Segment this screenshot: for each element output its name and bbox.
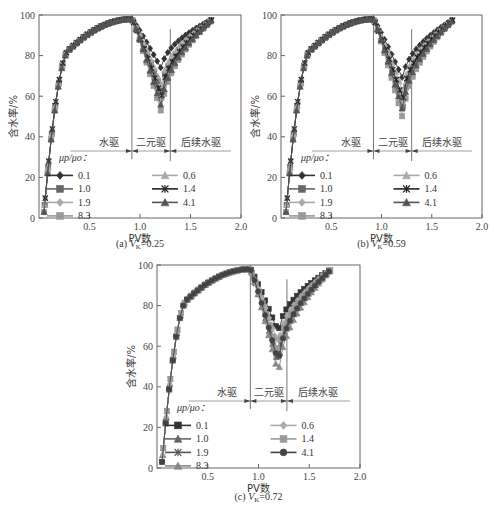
chart-b: 0204060801000.51.01.52.0PV数含水率/%(b) VK=0… — [249, 10, 488, 252]
legend-label: 8.3 — [78, 210, 91, 221]
legend-item-8.3: 8.3 — [289, 210, 333, 221]
region-label: 二元驱 — [254, 387, 284, 398]
chart-caption: (a) VK=0.25 — [116, 238, 164, 251]
x-tick-label: 0.5 — [325, 221, 338, 232]
region-label: 后续水驱 — [181, 136, 221, 148]
legend-label: 1.4 — [425, 183, 438, 194]
y-tick-label: 80 — [143, 300, 153, 311]
y-tick-label: 100 — [262, 10, 277, 21]
region-label: 水驱 — [341, 137, 361, 148]
y-axis-label: 含水率/% — [125, 345, 137, 388]
legend-item-1.9: 1.9 — [47, 197, 91, 208]
legend-label: 1.9 — [78, 197, 91, 208]
legend-item-8.3: 8.3 — [47, 210, 91, 221]
legend-item-0.1: 0.1 — [165, 420, 209, 431]
legend-label: 1.4 — [302, 433, 315, 444]
chart-c: 0204060801000.51.01.52.0PV数含水率/%(c) VK=0… — [125, 260, 366, 505]
legend-item-0.6: 0.6 — [152, 170, 196, 181]
x-tick-label: 2.0 — [354, 471, 367, 482]
legend-item-8.3: 8.3 — [165, 460, 209, 471]
x-tick-label: 0.5 — [202, 471, 215, 482]
plot-frame — [281, 15, 482, 218]
y-tick-label: 80 — [267, 50, 277, 61]
y-tick-label: 40 — [143, 381, 153, 392]
legend-item-1.0: 1.0 — [289, 183, 333, 194]
legend-label: 4.1 — [302, 447, 315, 458]
y-tick-label: 20 — [25, 172, 35, 183]
y-tick-label: 0 — [272, 213, 277, 224]
region-label: 二元驱 — [136, 137, 166, 148]
figure: 0204060801000.51.01.52.0PV数含水率/%(a) VK=0… — [0, 0, 494, 517]
legend-item-4.1: 4.1 — [152, 197, 196, 208]
x-tick-label: 1.5 — [184, 221, 197, 232]
y-tick-label: 0 — [148, 463, 153, 474]
legend-item-4.1: 4.1 — [394, 197, 438, 208]
y-tick-label: 40 — [25, 131, 35, 142]
legend-item-0.6: 0.6 — [271, 420, 315, 431]
x-tick-label: 1.0 — [375, 221, 388, 232]
legend-label: 1.0 — [320, 183, 333, 194]
x-tick-label: 2.0 — [476, 221, 489, 232]
y-tick-label: 20 — [267, 172, 277, 183]
x-tick-label: 1.0 — [252, 471, 265, 482]
y-tick-label: 60 — [25, 91, 35, 102]
y-axis-label: 含水率/% — [249, 95, 261, 138]
legend-item-1.4: 1.4 — [271, 433, 315, 444]
y-tick-label: 0 — [30, 213, 35, 224]
region-label: 后续水驱 — [298, 386, 338, 398]
legend-title: μp/μo： — [58, 152, 92, 163]
legend-item-1.4: 1.4 — [394, 183, 438, 194]
legend-item-1.9: 1.9 — [289, 197, 333, 208]
x-tick-label: 0.5 — [83, 221, 96, 232]
region-label: 后续水驱 — [422, 136, 462, 148]
legend-item-0.6: 0.6 — [394, 170, 438, 181]
region-label: 二元驱 — [378, 137, 408, 148]
legend-label: 1.0 — [196, 433, 209, 444]
x-tick-label: 1.5 — [426, 221, 439, 232]
y-tick-label: 20 — [143, 422, 153, 433]
legend-label: 0.6 — [183, 170, 196, 181]
legend-title: μp/μo： — [176, 402, 210, 413]
legend-label: 0.6 — [425, 170, 438, 181]
legend-label: 4.1 — [183, 197, 196, 208]
y-tick-label: 80 — [25, 50, 35, 61]
x-tick-label: 2.0 — [235, 221, 248, 232]
legend-item-1.0: 1.0 — [47, 183, 91, 194]
y-tick-label: 100 — [20, 10, 35, 21]
legend-item-1.0: 1.0 — [165, 433, 209, 444]
legend-item-1.4: 1.4 — [152, 183, 196, 194]
y-tick-label: 60 — [143, 341, 153, 352]
legend-label: 0.6 — [302, 420, 315, 431]
plot-frame — [39, 15, 241, 218]
legend-label: 1.9 — [196, 447, 209, 458]
legend-label: 8.3 — [320, 210, 333, 221]
legend-item-4.1: 4.1 — [271, 447, 315, 458]
x-tick-label: 1.5 — [303, 471, 316, 482]
y-tick-label: 100 — [138, 260, 153, 271]
legend-item-1.9: 1.9 — [165, 447, 209, 458]
region-label: 水驱 — [217, 387, 237, 398]
legend-label: 1.4 — [183, 183, 196, 194]
legend-label: 4.1 — [425, 197, 438, 208]
chart-a: 0204060801000.51.01.52.0PV数含水率/%(a) VK=0… — [7, 10, 247, 252]
legend-label: 1.0 — [78, 183, 91, 194]
y-axis-label: 含水率/% — [7, 95, 19, 138]
chart-caption: (c) VK=0.72 — [235, 491, 283, 504]
y-tick-label: 60 — [267, 91, 277, 102]
legend-item-0.1: 0.1 — [47, 170, 91, 181]
legend-label: 0.1 — [78, 170, 91, 181]
legend-label: 1.9 — [320, 197, 333, 208]
legend-label: 0.1 — [320, 170, 333, 181]
x-tick-label: 1.0 — [134, 221, 147, 232]
region-label: 水驱 — [99, 137, 119, 148]
legend-label: 8.3 — [196, 460, 209, 471]
legend-title: μp/μo： — [300, 152, 334, 163]
y-tick-label: 40 — [267, 131, 277, 142]
legend-label: 0.1 — [196, 420, 209, 431]
legend-item-0.1: 0.1 — [289, 170, 333, 181]
